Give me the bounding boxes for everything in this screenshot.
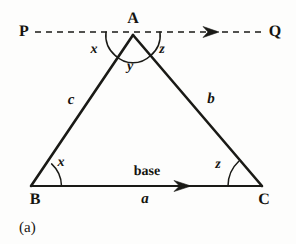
angle-label-apex-interior-y: y: [127, 60, 133, 74]
angle-label-apex-right-z: z: [159, 43, 164, 57]
vertex-label-c: C: [258, 192, 270, 208]
geometry-figure: A B C P Q x z y x z c b a base (a): [0, 0, 296, 244]
vertex-label-a: A: [127, 11, 139, 27]
side-label-a: a: [141, 192, 149, 207]
angle-arc-vertex-c: [228, 161, 239, 186]
side-label-c: c: [68, 93, 75, 108]
angle-arc-apex-x: [106, 32, 116, 56]
figure-caption: (a): [19, 221, 36, 236]
base-text-label: base: [134, 165, 160, 179]
side-label-b: b: [207, 92, 215, 107]
ray-label-q: Q: [269, 24, 281, 40]
dashed-ray-pq: [35, 27, 265, 38]
angle-label-vertex-b-x: x: [58, 156, 65, 170]
angle-label-vertex-c-z: z: [215, 158, 220, 172]
angle-label-apex-left-x: x: [91, 43, 98, 57]
triangle-diagram-svg: [0, 0, 296, 244]
vertex-label-b: B: [30, 192, 41, 208]
ray-label-p: P: [19, 24, 29, 40]
